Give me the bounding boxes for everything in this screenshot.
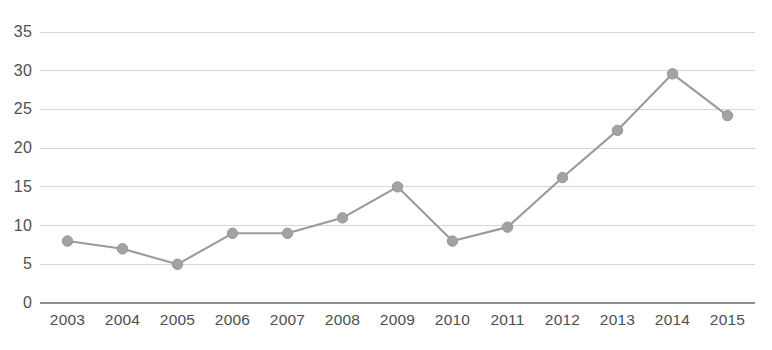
line-chart: 05101520253035 2003200420052006200720082… xyxy=(0,0,772,350)
x-axis-tick-label: 2015 xyxy=(710,312,745,328)
y-axis-tick-label: 0 xyxy=(0,295,32,311)
y-axis-tick-label: 30 xyxy=(0,63,32,79)
x-axis-tick-label: 2003 xyxy=(50,312,85,328)
y-axis-tick-label: 35 xyxy=(0,24,32,40)
y-axis-tick-label: 10 xyxy=(0,218,32,234)
data-point xyxy=(612,125,622,135)
gridlines xyxy=(40,32,755,264)
x-axis-tick-label: 2005 xyxy=(160,312,195,328)
x-axis-tick-label: 2011 xyxy=(490,312,524,328)
x-axis-tick-label: 2010 xyxy=(435,312,470,328)
plot-area xyxy=(0,0,772,350)
y-axis-tick-label: 20 xyxy=(0,140,32,156)
data-point xyxy=(722,110,732,120)
data-point xyxy=(172,259,182,269)
data-series xyxy=(68,74,728,264)
data-point xyxy=(667,69,677,79)
x-axis-tick-label: 2007 xyxy=(270,312,305,328)
x-axis-tick-label: 2012 xyxy=(545,312,580,328)
data-point xyxy=(62,236,72,246)
x-axis-tick-label: 2004 xyxy=(105,312,140,328)
data-point xyxy=(227,228,237,238)
y-axis-tick-label: 25 xyxy=(0,101,32,117)
x-axis-tick-label: 2009 xyxy=(380,312,415,328)
data-point xyxy=(337,213,347,223)
y-axis-tick-label: 5 xyxy=(0,256,32,272)
data-markers xyxy=(62,69,732,270)
data-point xyxy=(392,182,402,192)
x-axis-tick-label: 2014 xyxy=(655,312,690,328)
x-axis-tick-label: 2013 xyxy=(600,312,635,328)
data-point xyxy=(557,172,567,182)
series-line xyxy=(68,74,728,264)
data-point xyxy=(117,244,127,254)
data-point xyxy=(447,236,457,246)
data-point xyxy=(282,228,292,238)
x-axis-tick-label: 2008 xyxy=(325,312,360,328)
data-point xyxy=(502,222,512,232)
y-axis-tick-label: 15 xyxy=(0,179,32,195)
x-axis-tick-label: 2006 xyxy=(215,312,250,328)
